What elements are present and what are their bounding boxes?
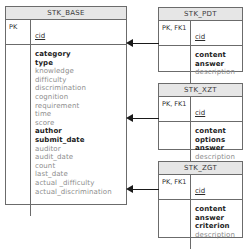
attribute-rows-stk-zgt: content answer criterion description xyxy=(159,200,242,249)
attribute-item: category xyxy=(35,50,124,59)
entity-stk-base[interactable]: STK_BASE PK cid category type knowledge … xyxy=(5,6,127,205)
relationship-arrow-stk-xzt xyxy=(126,114,133,122)
key-field-cell-stk-zgt: cid xyxy=(191,175,242,199)
key-label-stk-base: PK xyxy=(6,20,31,44)
attribute-list-stk-zgt: content answer criterion description xyxy=(191,200,242,249)
attribute-item: author xyxy=(35,127,124,136)
relationship-line-stk-zgt xyxy=(133,189,159,190)
attribute-item: content xyxy=(195,127,240,136)
relationship-arrow-stk-pdt xyxy=(126,39,133,47)
attribute-item: type xyxy=(35,59,124,68)
entity-title-stk-pdt: STK_PDT xyxy=(159,8,242,21)
entity-body-stk-xzt: PK, FK1 cid content options answer descr… xyxy=(159,97,242,161)
attribute-item: description xyxy=(195,231,240,240)
attribute-list-stk-xzt: content options answer description xyxy=(191,122,242,161)
relationship-arrow-stk-zgt xyxy=(126,185,133,193)
attribute-item: actual_discrimination xyxy=(35,188,124,197)
attribute-item: content xyxy=(195,51,240,60)
entity-title-stk-zgt: STK_ZGT xyxy=(159,162,242,175)
attribute-item: score xyxy=(35,119,124,128)
key-field-stk-xzt: cid xyxy=(195,109,205,117)
key-row-stk-pdt: PK, FK1 cid xyxy=(159,21,242,46)
relationship-line-stk-xzt xyxy=(133,118,159,119)
key-label-stk-zgt: PK, FK1 xyxy=(159,175,191,199)
key-label-stk-pdt: PK, FK1 xyxy=(159,21,191,45)
attribute-item: difficulty xyxy=(35,76,124,85)
key-field-cell-stk-xzt: cid xyxy=(191,97,242,121)
attribute-item: count xyxy=(35,162,124,171)
key-field-stk-pdt: cid xyxy=(195,33,205,41)
key-row-stk-xzt: PK, FK1 cid xyxy=(159,97,242,122)
entity-stk-pdt[interactable]: STK_PDT PK, FK1 cid content answer descr… xyxy=(158,7,243,72)
key-field-cell-stk-pdt: cid xyxy=(191,21,242,45)
attribute-item: answer xyxy=(195,144,240,153)
entity-stk-zgt[interactable]: STK_ZGT PK, FK1 cid content answer crite… xyxy=(158,161,243,238)
entity-title-stk-base: STK_BASE xyxy=(6,7,126,20)
attribute-gutter-stk-zgt xyxy=(159,200,191,249)
attribute-rows-stk-base: category type knowledge difficulty discr… xyxy=(6,45,126,216)
attribute-item: auditor xyxy=(35,145,124,154)
entity-body-stk-pdt: PK, FK1 cid content answer description xyxy=(159,21,242,83)
attribute-rows-stk-xzt: content options answer description xyxy=(159,122,242,161)
key-row-stk-base: PK cid xyxy=(6,20,126,45)
attribute-item: cognition xyxy=(35,93,124,102)
key-field-stk-zgt: cid xyxy=(195,187,205,195)
key-label-stk-xzt: PK, FK1 xyxy=(159,97,191,121)
attribute-item: audit_date xyxy=(35,153,124,162)
relationship-line-stk-pdt xyxy=(133,43,159,44)
attribute-list-stk-base: category type knowledge difficulty discr… xyxy=(31,45,126,216)
key-row-stk-zgt: PK, FK1 cid xyxy=(159,175,242,200)
attribute-rows-stk-pdt: content answer description xyxy=(159,46,242,83)
attribute-item: requirement xyxy=(35,102,124,111)
entity-body-stk-zgt: PK, FK1 cid content answer criterion des… xyxy=(159,175,242,249)
entity-body-stk-base: PK cid category type knowledge difficult… xyxy=(6,20,126,216)
attribute-item: answer xyxy=(195,214,240,223)
attribute-item: knowledge xyxy=(35,67,124,76)
attribute-item: submit_date xyxy=(35,136,124,145)
key-field-cell-stk-base: cid xyxy=(31,20,126,44)
attribute-item: discrimination xyxy=(35,84,124,93)
attribute-item: answer xyxy=(195,60,240,69)
key-field-stk-base: cid xyxy=(35,32,45,40)
attribute-item: time xyxy=(35,110,124,119)
attribute-item: options xyxy=(195,136,240,145)
attribute-list-stk-pdt: content answer description xyxy=(191,46,242,83)
attribute-gutter-stk-pdt xyxy=(159,46,191,83)
attribute-gutter-stk-base xyxy=(6,45,31,216)
entity-stk-xzt[interactable]: STK_XZT PK, FK1 cid content options answ… xyxy=(158,83,243,150)
entity-title-stk-xzt: STK_XZT xyxy=(159,84,242,97)
attribute-item: description xyxy=(195,68,240,77)
attribute-item: last_date xyxy=(35,170,124,179)
attribute-item: content xyxy=(195,205,240,214)
attribute-item: criterion xyxy=(195,222,240,231)
attribute-gutter-stk-xzt xyxy=(159,122,191,161)
attribute-item: actual _difficulty xyxy=(35,179,124,188)
